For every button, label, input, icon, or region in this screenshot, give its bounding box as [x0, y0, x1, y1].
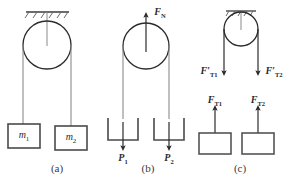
force-label-FT1-prime: F′T1 — [200, 65, 217, 78]
force-label-FN: FN — [154, 6, 165, 19]
force-label-FT2-prime: F′T2 — [265, 65, 282, 78]
block-label-m1: m1 — [19, 129, 30, 143]
block-c-right — [242, 133, 274, 154]
panel-b-graphics — [108, 15, 184, 148]
caption-panel-b: (b) — [142, 162, 155, 174]
caption-panel-c: (c) — [234, 162, 246, 174]
physics-figure: m1 m2 FN P1 P2 F′T1 F′T2 FT1 FT2 (a) (b)… — [0, 0, 291, 184]
caption-panel-a: (a) — [51, 162, 63, 174]
block-label-m2: m2 — [66, 131, 77, 145]
panel-c-graphics — [199, 11, 274, 154]
force-label-P1: P1 — [118, 152, 127, 165]
force-label-FT2: FT2 — [251, 94, 265, 107]
block-c-left — [199, 133, 231, 154]
force-label-P2: P2 — [164, 152, 173, 165]
force-label-FT1: FT1 — [208, 94, 222, 107]
figure-canvas — [0, 0, 291, 184]
